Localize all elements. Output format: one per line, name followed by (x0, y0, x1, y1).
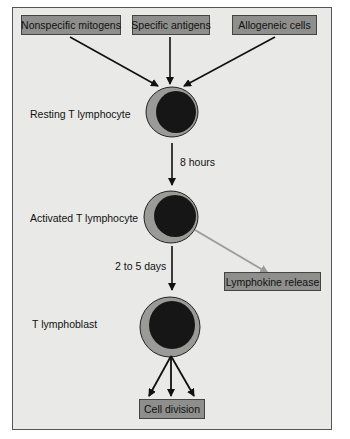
label-8-hours: 8 hours (180, 156, 215, 168)
output-box-lymphokine: Lymphokine release (224, 272, 321, 291)
resting-cell-icon (146, 87, 198, 137)
input-box-antigens: Specific antigens (132, 15, 210, 35)
arrow-lymphokine (195, 230, 268, 273)
arrow-allogeneic (184, 37, 275, 86)
input-box-allogeneic: Allogeneic cells (232, 15, 317, 35)
label-activated: Activated T lymphocyte (30, 212, 138, 224)
activated-cell-icon (144, 191, 198, 243)
input-box-mitogens: Nonspecific mitogens (21, 15, 121, 35)
label-resting: Resting T lymphocyte (30, 108, 131, 120)
output-box-cell-division: Cell division (139, 399, 205, 419)
arrow-mitogens (70, 37, 158, 86)
lymphoblast-cell-icon (140, 297, 200, 357)
label-lymphoblast: T lymphoblast (32, 318, 97, 330)
label-2-5-days: 2 to 5 days (115, 260, 166, 272)
